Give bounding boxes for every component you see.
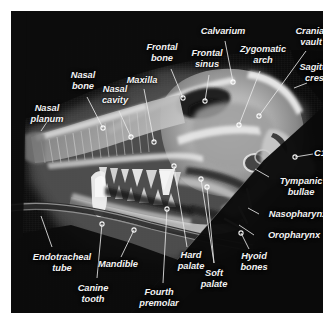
label-canine-tooth-line2: tooth	[78, 294, 109, 305]
label-nasopharynx: Nasopharynx	[269, 209, 323, 220]
label-nasal-bone-line1: Nasal	[71, 70, 96, 81]
radiograph-figure: Nasal planum Nasal bone Nasal cavity Max…	[0, 0, 334, 324]
label-hard-palate: Hard palate	[178, 250, 205, 271]
label-nasal-planum: Nasal planum	[31, 103, 64, 124]
label-mandible-line1: Mandible	[98, 259, 138, 270]
radiograph-plate: Nasal planum Nasal bone Nasal cavity Max…	[11, 11, 323, 313]
label-sagittal-crest-line2: crest	[299, 73, 323, 84]
label-endotracheal-tube: Endotracheal tube	[33, 252, 91, 273]
label-fourth-premolar-line2: premolar	[139, 298, 178, 309]
label-cranial-vault-line1: Cranial	[295, 26, 323, 37]
label-nasal-bone-line2: bone	[71, 81, 96, 92]
label-cranial-vault: Cranial vault	[295, 26, 323, 47]
annotation-labels: Nasal planum Nasal bone Nasal cavity Max…	[11, 11, 323, 313]
label-maxilla: Maxilla	[127, 75, 158, 86]
label-canine-tooth: Canine tooth	[78, 283, 109, 304]
label-sagittal-crest: Sagittal crest	[299, 62, 323, 83]
label-nasal-cavity-line2: cavity	[102, 95, 128, 106]
label-hyoid-bones-line2: bones	[240, 262, 267, 273]
label-c1: C1	[314, 148, 323, 159]
label-fourth-premolar: Fourth premolar	[139, 287, 178, 308]
label-c1-line1: C1	[314, 148, 323, 159]
label-sagittal-crest-line1: Sagittal	[299, 62, 323, 73]
label-calvarium: Calvarium	[201, 26, 246, 37]
label-mandible: Mandible	[98, 259, 138, 270]
label-hyoid-bones: Hyoid bones	[240, 251, 267, 272]
label-frontal-sinus: Frontal sinus	[191, 48, 222, 69]
label-maxilla-line1: Maxilla	[127, 75, 158, 86]
label-fourth-premolar-line1: Fourth	[139, 287, 178, 298]
label-hard-palate-line2: palate	[178, 261, 205, 272]
label-frontal-bone: Frontal bone	[146, 42, 177, 63]
label-hard-palate-line1: Hard	[178, 250, 205, 261]
label-zygomatic-arch-line1: Zygomatic	[240, 44, 286, 55]
label-oropharynx: Oropharynx	[268, 230, 320, 241]
label-tympanic-bullae: Tympanic bullae	[280, 176, 323, 197]
label-tympanic-bullae-line1: Tympanic	[280, 176, 323, 187]
label-nasopharynx-line1: Nasopharynx	[269, 209, 323, 220]
label-endotracheal-tube-line2: tube	[33, 263, 91, 274]
label-nasal-cavity: Nasal cavity	[102, 84, 128, 105]
label-calvarium-line1: Calvarium	[201, 26, 246, 37]
label-nasal-planum-line1: Nasal	[31, 103, 64, 114]
label-zygomatic-arch-line2: arch	[240, 55, 286, 66]
label-nasal-cavity-line1: Nasal	[102, 84, 128, 95]
label-frontal-bone-line1: Frontal	[146, 42, 177, 53]
label-nasal-bone: Nasal bone	[71, 70, 96, 91]
label-frontal-sinus-line2: sinus	[191, 59, 222, 70]
label-oropharynx-line1: Oropharynx	[268, 230, 320, 241]
label-endotracheal-tube-line1: Endotracheal	[33, 252, 91, 263]
label-tympanic-bullae-line2: bullae	[280, 187, 323, 198]
label-hyoid-bones-line1: Hyoid	[240, 251, 267, 262]
label-nasal-planum-line2: planum	[31, 114, 64, 125]
label-zygomatic-arch: Zygomatic arch	[240, 44, 286, 65]
label-soft-palate: Soft palate	[201, 268, 228, 289]
label-soft-palate-line2: palate	[201, 279, 228, 290]
label-frontal-sinus-line1: Frontal	[191, 48, 222, 59]
label-canine-tooth-line1: Canine	[78, 283, 109, 294]
label-frontal-bone-line2: bone	[146, 53, 177, 64]
label-cranial-vault-line2: vault	[295, 37, 323, 48]
